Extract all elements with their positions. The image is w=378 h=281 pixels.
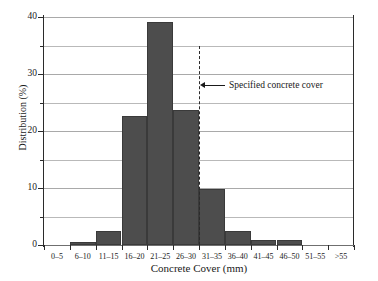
y-axis-title: Distribution (%)	[17, 58, 28, 178]
x-tick-6	[199, 245, 200, 250]
bar-31–35	[199, 189, 225, 245]
x-tick-1	[70, 245, 71, 250]
bar-46–50	[277, 240, 303, 245]
x-axis-title: Concrete Cover (mm)	[44, 262, 354, 274]
specified-cover-line	[199, 46, 200, 246]
x-tick-0	[44, 245, 45, 250]
bar-16–20	[122, 116, 148, 245]
x-tick-12	[354, 245, 355, 250]
x-tick-4	[147, 245, 148, 250]
x-tick-2	[96, 245, 97, 250]
bar-6–10	[70, 242, 96, 245]
y-tick-label-10: 10	[7, 183, 37, 193]
bar-41–45	[251, 240, 277, 245]
x-tick-3	[122, 245, 123, 250]
annotation-label: Specified concrete cover	[229, 80, 323, 90]
x-tick-11	[328, 245, 329, 250]
x-tick-9	[277, 245, 278, 250]
bar-26–30	[173, 110, 199, 245]
x-tick-8	[251, 245, 252, 250]
y-tick-label-40: 40	[7, 12, 37, 22]
x-tick-7	[225, 245, 226, 250]
x-tick-label->55: >55	[321, 252, 361, 261]
y-tick-label-0: 0	[7, 240, 37, 250]
annotation-leader-line	[205, 85, 225, 86]
bar-11–15	[96, 231, 122, 245]
bar-36–40	[225, 231, 251, 245]
x-tick-5	[173, 245, 174, 250]
bar-21–25	[147, 22, 173, 245]
histogram-figure: 40 30 20 10 0 Distribution (%) Specified…	[0, 0, 378, 281]
x-tick-10	[302, 245, 303, 250]
